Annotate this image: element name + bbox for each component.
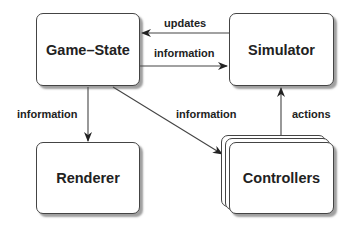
node-renderer-label: Renderer (56, 170, 120, 186)
edge-label-info-renderer: information (17, 108, 78, 120)
node-controllers: Controllers (229, 142, 334, 214)
edge-label-actions: actions (292, 108, 331, 120)
node-simulator: Simulator (229, 13, 334, 86)
edge-label-info-controllers: information (176, 108, 237, 120)
node-game-state-label: Game–State (46, 42, 130, 58)
node-simulator-label: Simulator (248, 42, 315, 58)
edge-label-info-simulator: information (154, 47, 215, 59)
edge-label-updates: updates (164, 17, 206, 29)
node-controllers-label: Controllers (243, 170, 320, 186)
node-renderer: Renderer (36, 142, 140, 214)
node-game-state: Game–State (36, 13, 140, 86)
